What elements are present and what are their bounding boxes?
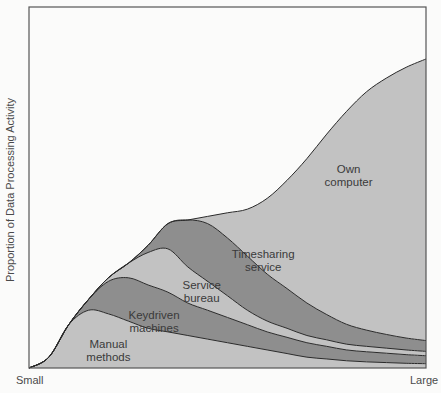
x-axis-label-large: Large bbox=[410, 374, 438, 386]
label-line: computer bbox=[325, 176, 373, 188]
label-line: bureau bbox=[184, 292, 220, 304]
label-line: Keydriven bbox=[128, 309, 179, 321]
label-line: service bbox=[245, 261, 281, 273]
x-axis-label-small: Small bbox=[16, 374, 44, 386]
label-line: Timesharing bbox=[232, 248, 295, 260]
label-line: Service bbox=[183, 279, 221, 291]
label-line: machines bbox=[129, 322, 178, 334]
y-axis-label: Proportion of Data Processing Activity bbox=[4, 97, 16, 282]
label-line: methods bbox=[86, 351, 130, 363]
label-line: Manual bbox=[90, 338, 128, 350]
label-line: Own bbox=[337, 163, 361, 175]
label-service-bureau: Servicebureau bbox=[183, 279, 221, 304]
label-keydriven-machines: Keydrivenmachines bbox=[128, 309, 179, 334]
area-layers bbox=[29, 59, 426, 368]
label-manual-methods: Manualmethods bbox=[86, 338, 130, 363]
stacked-area-chart: ManualmethodsKeydrivenmachinesServicebur… bbox=[0, 0, 441, 393]
